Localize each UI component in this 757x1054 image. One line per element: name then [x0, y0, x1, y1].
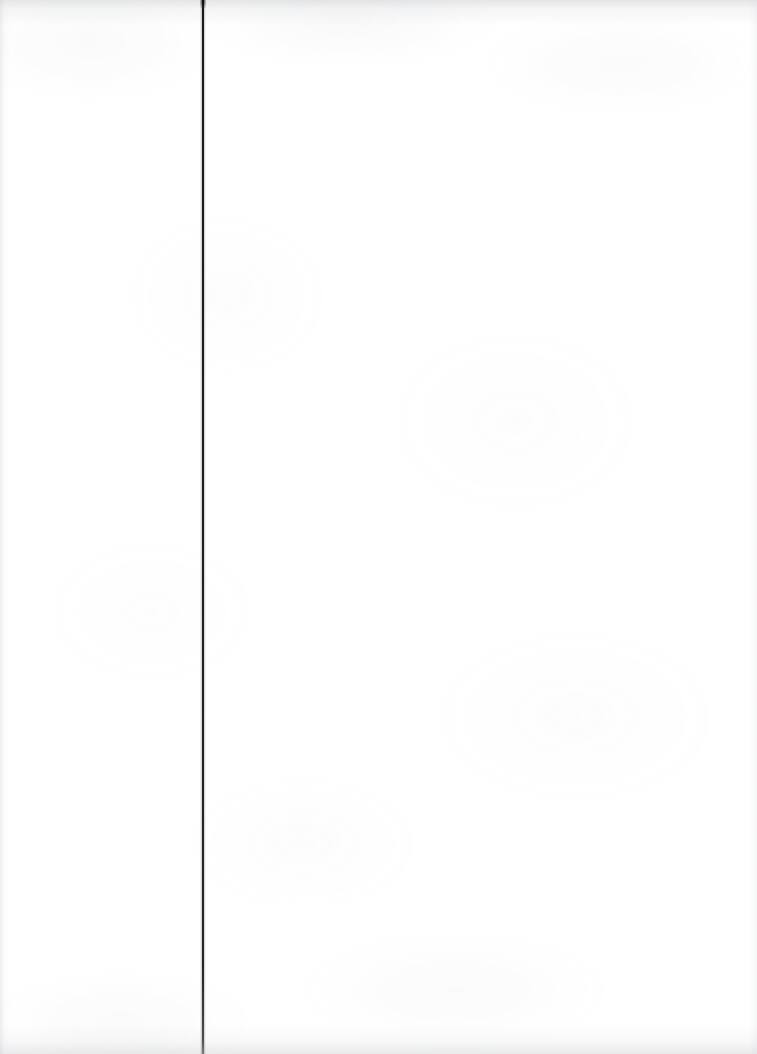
binding-gutter-line: [202, 0, 204, 1054]
paper-background: [0, 0, 757, 1054]
scanned-page: [0, 0, 757, 1054]
